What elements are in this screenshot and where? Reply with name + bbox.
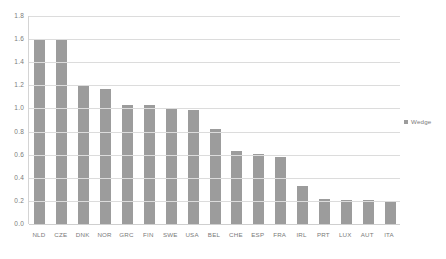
y-axis-tick-label: 1.2: [14, 82, 24, 89]
x-axis-tick-label: NOR: [97, 231, 111, 238]
legend-label-wedge: Wedge: [411, 118, 432, 125]
bar: [363, 200, 374, 224]
y-axis-tick-label: 1.4: [14, 59, 24, 66]
bar: [166, 108, 177, 224]
plot-area: [28, 16, 400, 224]
gridline: [29, 108, 400, 109]
bar: [297, 186, 308, 224]
x-axis-tick-label: LUX: [339, 231, 352, 238]
x-axis-tick-label: ITA: [384, 231, 394, 238]
gridline: [29, 155, 400, 156]
legend-swatch-wedge: [404, 120, 408, 124]
x-axis-tick-label: GRC: [119, 231, 133, 238]
y-axis-tick-label: 1.8: [14, 13, 24, 20]
bar: [275, 157, 286, 224]
x-axis-tick-label: PRT: [317, 231, 330, 238]
bar-chart: 0.00.20.40.60.81.01.21.41.61.8 NLDCZEDNK…: [0, 0, 446, 259]
y-axis: 0.00.20.40.60.81.01.21.41.61.8: [0, 0, 28, 259]
x-axis-tick-label: SWE: [163, 231, 178, 238]
gridline: [29, 39, 400, 40]
gridline: [29, 132, 400, 133]
y-axis-tick-label: 0.6: [14, 151, 24, 158]
x-axis-tick-label: DNK: [76, 231, 90, 238]
x-axis: NLDCZEDNKNORGRCFINSWEUSABELCHEESPFRAIRLP…: [28, 225, 400, 247]
x-axis-tick-label: CZE: [54, 231, 67, 238]
bar: [231, 151, 242, 224]
chart-legend: Wedge: [404, 118, 432, 125]
y-axis-tick-label: 1.0: [14, 105, 24, 112]
gridline: [29, 178, 400, 179]
x-axis-tick-label: NLD: [32, 231, 45, 238]
x-axis-tick-label: FIN: [143, 231, 154, 238]
x-axis-tick-label: FRA: [273, 231, 286, 238]
bar: [144, 105, 155, 224]
bar: [210, 129, 221, 224]
y-axis-tick-label: 0.2: [14, 198, 24, 205]
y-axis-tick-label: 0.0: [14, 221, 24, 228]
gridline: [29, 16, 400, 17]
bar: [188, 110, 199, 224]
bar: [122, 105, 133, 224]
gridline: [29, 201, 400, 202]
x-axis-tick-label: BEL: [208, 231, 220, 238]
bar: [341, 200, 352, 224]
x-axis-tick-label: ESP: [251, 231, 264, 238]
y-axis-tick-label: 1.6: [14, 36, 24, 43]
x-axis-tick-label: AUT: [361, 231, 374, 238]
gridline: [29, 62, 400, 63]
x-axis-tick-label: CHE: [229, 231, 243, 238]
bar: [385, 202, 396, 224]
y-axis-tick-label: 0.8: [14, 128, 24, 135]
gridline: [29, 85, 400, 86]
y-axis-tick-label: 0.4: [14, 175, 24, 182]
x-axis-tick-label: USA: [185, 231, 198, 238]
bar: [253, 154, 264, 224]
x-axis-tick-label: IRL: [296, 231, 306, 238]
bar: [319, 199, 330, 224]
bars-layer: [29, 16, 400, 224]
